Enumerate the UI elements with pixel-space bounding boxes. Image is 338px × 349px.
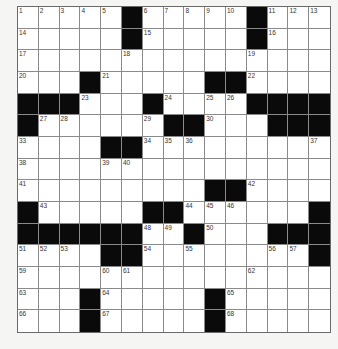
crossword-cell[interactable] [309,72,330,94]
crossword-cell[interactable] [226,224,247,246]
crossword-cell[interactable] [164,159,185,181]
crossword-cell[interactable] [226,159,247,181]
crossword-cell[interactable]: 7 [164,7,185,29]
crossword-cell[interactable] [226,29,247,51]
crossword-cell[interactable] [226,245,247,267]
crossword-cell[interactable]: 61 [122,267,143,289]
crossword-cell[interactable] [143,310,164,332]
crossword-cell[interactable]: 29 [143,115,164,137]
crossword-cell[interactable]: 67 [101,310,122,332]
crossword-cell[interactable]: 28 [60,115,81,137]
crossword-cell[interactable] [164,50,185,72]
crossword-cell[interactable]: 60 [101,267,122,289]
crossword-cell[interactable] [122,289,143,311]
crossword-cell[interactable] [184,159,205,181]
crossword-cell[interactable] [184,289,205,311]
crossword-cell[interactable] [184,72,205,94]
crossword-cell[interactable] [268,137,289,159]
crossword-cell[interactable] [143,50,164,72]
crossword-cell[interactable] [101,50,122,72]
crossword-cell[interactable]: 21 [101,72,122,94]
crossword-cell[interactable]: 16 [268,29,289,51]
crossword-cell[interactable] [164,29,185,51]
crossword-cell[interactable] [164,310,185,332]
crossword-cell[interactable]: 65 [226,289,247,311]
crossword-cell[interactable]: 15 [143,29,164,51]
crossword-cell[interactable]: 39 [101,159,122,181]
crossword-cell[interactable]: 45 [205,202,226,224]
crossword-cell[interactable]: 36 [184,137,205,159]
crossword-cell[interactable]: 10 [226,7,247,29]
crossword-cell[interactable]: 57 [288,245,309,267]
crossword-cell[interactable]: 26 [226,94,247,116]
crossword-cell[interactable] [205,50,226,72]
crossword-cell[interactable] [164,245,185,267]
crossword-cell[interactable] [39,310,60,332]
crossword-cell[interactable] [39,267,60,289]
crossword-cell[interactable] [101,202,122,224]
crossword-cell[interactable] [80,159,101,181]
crossword-cell[interactable]: 64 [101,289,122,311]
crossword-cell[interactable] [288,289,309,311]
crossword-cell[interactable] [309,180,330,202]
crossword-cell[interactable]: 23 [80,94,101,116]
crossword-cell[interactable]: 3 [60,7,81,29]
crossword-cell[interactable] [184,50,205,72]
crossword-cell[interactable]: 19 [247,50,268,72]
crossword-cell[interactable] [39,180,60,202]
crossword-cell[interactable]: 6 [143,7,164,29]
crossword-cell[interactable] [101,94,122,116]
crossword-cell[interactable] [60,159,81,181]
crossword-cell[interactable]: 66 [18,310,39,332]
crossword-cell[interactable] [39,72,60,94]
crossword-cell[interactable] [309,267,330,289]
crossword-cell[interactable] [39,289,60,311]
crossword-cell[interactable]: 20 [18,72,39,94]
crossword-cell[interactable] [122,72,143,94]
crossword-cell[interactable] [80,245,101,267]
crossword-cell[interactable] [101,29,122,51]
crossword-cell[interactable] [268,310,289,332]
crossword-cell[interactable] [226,267,247,289]
crossword-cell[interactable]: 33 [18,137,39,159]
crossword-cell[interactable] [309,310,330,332]
crossword-cell[interactable] [143,267,164,289]
crossword-cell[interactable]: 35 [164,137,185,159]
crossword-cell[interactable] [122,202,143,224]
crossword-cell[interactable] [309,29,330,51]
crossword-cell[interactable] [80,29,101,51]
crossword-cell[interactable] [60,289,81,311]
crossword-cell[interactable] [247,159,268,181]
crossword-cell[interactable]: 4 [80,7,101,29]
crossword-cell[interactable] [205,245,226,267]
crossword-cell[interactable] [143,72,164,94]
crossword-cell[interactable]: 37 [309,137,330,159]
crossword-cell[interactable] [226,115,247,137]
crossword-cell[interactable] [268,159,289,181]
crossword-cell[interactable]: 27 [39,115,60,137]
crossword-cell[interactable] [288,72,309,94]
crossword-cell[interactable]: 59 [18,267,39,289]
crossword-cell[interactable]: 11 [268,7,289,29]
crossword-cell[interactable]: 25 [205,94,226,116]
crossword-cell[interactable] [80,137,101,159]
crossword-cell[interactable] [39,50,60,72]
crossword-cell[interactable]: 52 [39,245,60,267]
crossword-cell[interactable]: 62 [247,267,268,289]
crossword-cell[interactable] [164,180,185,202]
crossword-cell[interactable] [143,159,164,181]
crossword-cell[interactable]: 38 [18,159,39,181]
crossword-cell[interactable] [247,115,268,137]
crossword-cell[interactable]: 30 [205,115,226,137]
crossword-cell[interactable]: 5 [101,7,122,29]
crossword-cell[interactable]: 24 [164,94,185,116]
crossword-cell[interactable] [247,289,268,311]
crossword-cell[interactable]: 17 [18,50,39,72]
crossword-cell[interactable]: 43 [39,202,60,224]
crossword-cell[interactable] [309,159,330,181]
crossword-cell[interactable] [247,202,268,224]
crossword-cell[interactable] [80,50,101,72]
crossword-cell[interactable] [288,310,309,332]
crossword-cell[interactable] [247,224,268,246]
crossword-cell[interactable] [247,137,268,159]
